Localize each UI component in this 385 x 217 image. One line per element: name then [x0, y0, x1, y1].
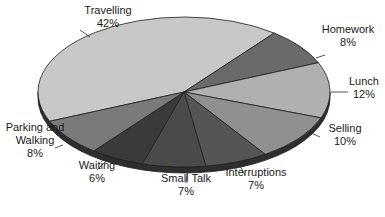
data-label-name: Parking and	[6, 121, 65, 133]
leader-line-travelling	[80, 30, 90, 37]
data-label-value: 12%	[353, 88, 375, 100]
data-label-homework: Homework8%	[322, 23, 375, 48]
data-label-name: Homework	[322, 23, 375, 35]
data-label-small-talk: Small Talk7%	[161, 172, 211, 197]
data-label-name: Walking	[16, 134, 55, 146]
data-label-value: 6%	[89, 172, 105, 184]
data-label-value: 8%	[27, 147, 43, 159]
data-label-parking-and-walking: Parking andWalking8%	[6, 121, 65, 159]
data-label-name: Travelling	[84, 4, 131, 16]
data-label-name: Interruptions	[225, 166, 287, 178]
data-label-value: 7%	[248, 179, 264, 191]
data-label-interruptions: Interruptions7%	[225, 166, 287, 191]
data-label-name: Small Talk	[161, 172, 211, 184]
pie-chart: Travelling42%Homework8%Lunch12%Selling10…	[0, 0, 385, 217]
data-label-value: 10%	[334, 135, 356, 147]
data-label-lunch: Lunch12%	[349, 75, 379, 100]
leader-line-homework	[316, 55, 325, 58]
data-label-name: Waiting	[79, 159, 115, 171]
pie-slices	[38, 17, 330, 167]
data-label-value: 7%	[178, 185, 194, 197]
data-label-name: Lunch	[349, 75, 379, 87]
data-label-name: Selling	[328, 122, 361, 134]
data-label-waiting: Waiting6%	[79, 159, 115, 184]
data-label-selling: Selling10%	[328, 122, 361, 147]
data-label-value: 42%	[97, 17, 119, 29]
data-label-value: 8%	[340, 36, 356, 48]
leader-line-parking-and-walking	[55, 145, 63, 148]
